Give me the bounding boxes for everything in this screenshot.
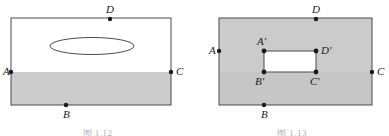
figure-left: A B C D 图 1.12 — [0, 0, 195, 136]
point-D-prime — [314, 49, 319, 54]
shaded-region-lower-right — [219, 72, 372, 105]
ellipse-shape — [50, 38, 134, 55]
label-C-prime: C′ — [310, 75, 320, 87]
inner-hole-rectangle — [264, 51, 316, 72]
point-C-prime — [314, 70, 319, 75]
figure-left-canvas: A B C D — [0, 0, 195, 136]
label-D-prime: D′ — [320, 44, 332, 56]
label-D-left: D — [105, 3, 114, 15]
shaded-band-left — [11, 72, 171, 105]
point-C-right — [370, 70, 374, 74]
figure-left-caption: 图 1.12 — [0, 129, 195, 136]
label-C-left: C — [176, 65, 184, 77]
point-B-left — [64, 103, 68, 107]
figure-right-canvas: A B C D A′ B′ C′ D′ — [195, 0, 389, 136]
figure-right-caption: 图 1.13 — [195, 129, 389, 136]
point-D-left — [108, 17, 112, 21]
label-A-prime: A′ — [256, 35, 267, 47]
point-B-prime — [262, 70, 267, 75]
figure-panel: A B C D 图 1.12 — [0, 0, 389, 136]
figure-right: A B C D A′ B′ C′ D′ 图 1.13 — [195, 0, 389, 136]
label-D-right: D — [311, 3, 320, 15]
label-B-right: B — [261, 108, 268, 120]
point-C-left — [169, 70, 173, 74]
label-B-left: B — [63, 108, 70, 120]
label-A-right: A — [208, 44, 216, 56]
label-A-left: A — [2, 65, 10, 77]
label-B-prime: B′ — [255, 75, 265, 87]
point-A-prime — [262, 49, 267, 54]
point-A-right — [217, 49, 221, 53]
point-B-right — [262, 103, 266, 107]
label-C-right: C — [377, 65, 385, 77]
point-D-right — [314, 17, 318, 21]
